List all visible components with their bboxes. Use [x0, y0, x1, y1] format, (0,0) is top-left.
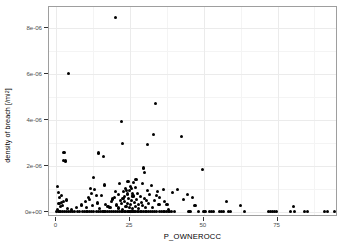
data-point [201, 168, 204, 171]
data-point [144, 206, 147, 209]
data-point [152, 133, 155, 136]
data-point [141, 182, 144, 185]
data-point [117, 193, 120, 196]
data-point [176, 188, 179, 191]
data-point [146, 143, 149, 146]
gridline-major-horizontal [49, 120, 336, 121]
y-axis-tick-label: 6e-06 [6, 69, 42, 76]
y-axis-tick-labels: 0e+002e-064e-066e-068e-06 [2, 0, 42, 251]
gridline-minor-horizontal [49, 97, 336, 98]
data-point [96, 201, 99, 204]
data-point [146, 189, 149, 192]
data-point [158, 196, 161, 199]
data-point [139, 195, 142, 198]
data-point [239, 204, 242, 207]
gridline-minor-horizontal [49, 189, 336, 190]
data-point [333, 210, 336, 213]
gridline-major-horizontal [49, 28, 336, 29]
data-point [162, 188, 165, 191]
data-point [157, 203, 160, 206]
data-point [222, 210, 225, 213]
data-point [62, 200, 65, 203]
data-point [120, 120, 123, 123]
y-axis-tick-label: 8e-06 [6, 23, 42, 30]
gridline-major-vertical [204, 7, 205, 215]
data-point [193, 204, 196, 207]
data-point [212, 210, 215, 213]
data-point [156, 190, 159, 193]
data-point [75, 206, 78, 209]
data-point [153, 199, 156, 202]
gridline-minor-horizontal [49, 143, 336, 144]
data-point [121, 142, 124, 145]
gridline-major-vertical [56, 7, 57, 215]
data-point [182, 198, 185, 201]
x-axis-tick-label: 75 [262, 221, 292, 228]
data-point [131, 194, 134, 197]
data-point [65, 198, 68, 201]
data-point [85, 206, 88, 209]
data-point [293, 210, 296, 213]
gridline-minor-vertical [93, 7, 94, 215]
data-point [126, 180, 129, 183]
data-point [132, 181, 135, 184]
data-point [134, 186, 137, 189]
gridline-major-horizontal [49, 166, 336, 167]
x-axis-title: P_OWNEROCC [48, 232, 337, 241]
data-point [60, 194, 63, 197]
gridline-major-vertical [130, 7, 131, 215]
data-point [122, 190, 125, 193]
data-point [126, 192, 129, 195]
data-point [103, 183, 106, 186]
data-point [191, 196, 194, 199]
data-point [326, 210, 329, 213]
data-point [148, 193, 151, 196]
data-point [173, 210, 176, 213]
data-point [97, 151, 100, 154]
data-point [289, 210, 292, 213]
x-axis-tick-label: 0 [40, 221, 70, 228]
data-point [56, 185, 59, 188]
data-point [88, 198, 91, 201]
data-point [143, 171, 146, 174]
data-point [137, 203, 140, 206]
data-point [70, 208, 73, 211]
data-point [93, 188, 96, 191]
data-point [117, 206, 120, 209]
data-point [225, 200, 228, 203]
data-point [292, 205, 295, 208]
y-axis-tick-label: 4e-06 [6, 115, 42, 122]
data-point [134, 178, 137, 181]
data-point [133, 201, 136, 204]
data-point [67, 72, 70, 75]
data-point [66, 207, 69, 210]
data-point [197, 210, 200, 213]
x-axis-tick-label: 50 [188, 221, 218, 228]
gridline-minor-vertical [167, 7, 168, 215]
data-point [80, 203, 83, 206]
data-point [120, 202, 123, 205]
data-point [165, 203, 168, 206]
data-point [188, 210, 191, 213]
data-point [62, 151, 65, 154]
y-axis-tick-label: 2e-06 [6, 161, 42, 168]
data-point [203, 210, 206, 213]
data-point [113, 196, 116, 199]
data-point [180, 135, 183, 138]
data-point [64, 159, 67, 162]
plot-panel [48, 6, 337, 216]
data-point [171, 191, 174, 194]
gridline-minor-vertical [241, 7, 242, 215]
data-point [59, 205, 62, 208]
gridline-minor-vertical [314, 7, 315, 215]
data-point [110, 200, 113, 203]
gridline-minor-horizontal [49, 51, 336, 52]
data-point [142, 166, 145, 169]
data-point [102, 155, 105, 158]
gridline-major-vertical [278, 7, 279, 215]
data-point [186, 193, 189, 196]
data-point [151, 206, 154, 209]
data-point [243, 210, 246, 213]
data-point [114, 16, 117, 19]
data-point [147, 202, 150, 205]
